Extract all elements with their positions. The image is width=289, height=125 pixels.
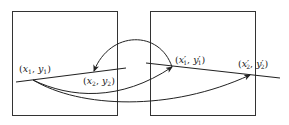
label-x2-y2: (x2, y2) [83,75,115,87]
arrow-p1prime-to-p2 [94,40,172,71]
left-frame [13,12,118,116]
label-x2prime-y2prime: (x′2, y′2) [238,58,268,70]
arrow-p1-to-p2prime [33,75,250,102]
label-x1-y1: (x1, y1) [19,63,51,75]
correspondence-diagram: (x1, y1) (x2, y2) (x′1, y′1) (x′2, y′2) [0,0,289,125]
label-x1prime-y1prime: (x′1, y′1) [175,54,205,66]
